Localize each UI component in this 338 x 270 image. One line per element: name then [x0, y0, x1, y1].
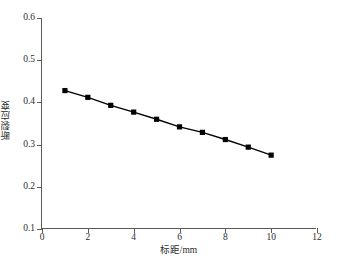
data-point-marker [85, 95, 90, 100]
data-point-marker [154, 117, 159, 122]
x-tick-label: 6 [177, 233, 182, 243]
y-tick-mark [37, 187, 42, 188]
y-tick-mark [37, 60, 42, 61]
x-tick-label: 2 [85, 233, 90, 243]
data-point-marker [269, 153, 274, 158]
data-point-marker [246, 145, 251, 150]
y-tick-label: 0.2 [23, 182, 35, 192]
y-tick-mark [37, 18, 42, 19]
data-point-marker [62, 88, 67, 93]
y-tick-label: 0.6 [23, 13, 35, 23]
x-tick-label: 0 [40, 233, 45, 243]
data-point-marker [108, 103, 113, 108]
data-point-marker [223, 137, 228, 142]
y-tick-mark [37, 145, 42, 146]
series-line [65, 91, 271, 156]
x-tick-label: 10 [266, 233, 276, 243]
y-tick-label: 0.1 [23, 224, 35, 234]
y-tick-label: 0.4 [23, 98, 35, 108]
data-point-marker [177, 124, 182, 129]
x-tick-label: 8 [223, 233, 228, 243]
chart-figure: 0.10.20.30.40.50.6 024681012 断裂应变 标距/mm [0, 0, 338, 270]
data-point-marker [200, 130, 205, 135]
y-tick-label: 0.3 [23, 140, 35, 150]
y-tick-mark [37, 102, 42, 103]
plot-area: 0.10.20.30.40.50.6 024681012 [41, 18, 316, 229]
data-point-marker [131, 110, 136, 115]
y-axis-title: 断裂应变 [2, 100, 12, 140]
x-axis-title: 标距/mm [41, 246, 316, 256]
series-layer [42, 18, 317, 229]
x-tick-label: 4 [131, 233, 136, 243]
x-tick-label: 12 [312, 233, 322, 243]
y-tick-label: 0.5 [23, 55, 35, 65]
